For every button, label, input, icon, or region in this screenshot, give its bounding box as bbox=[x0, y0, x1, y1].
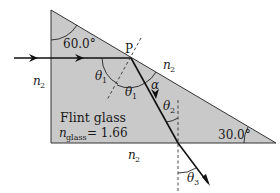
top-angle-label: 60.0° bbox=[63, 37, 96, 51]
n2-label-right: n 2 bbox=[163, 58, 175, 74]
svg-text:2: 2 bbox=[40, 81, 45, 90]
n2-label-bottom: n 2 bbox=[128, 148, 140, 164]
point-p-label: P bbox=[125, 42, 133, 56]
svg-text:1: 1 bbox=[132, 92, 137, 101]
svg-text:glass: glass bbox=[66, 133, 87, 142]
svg-text:= 1.66: = 1.66 bbox=[87, 126, 128, 140]
alpha-label: α bbox=[151, 78, 159, 92]
right-angle-label: 30.0° bbox=[218, 128, 251, 142]
svg-text:2: 2 bbox=[170, 65, 175, 74]
svg-text:1: 1 bbox=[102, 76, 107, 85]
svg-text:2: 2 bbox=[170, 106, 175, 115]
theta3-label: θ 3 bbox=[187, 171, 199, 187]
svg-text:3: 3 bbox=[194, 178, 199, 187]
svg-text:2: 2 bbox=[135, 155, 140, 164]
prism-refraction-diagram: 60.0° 30.0° P n 2 n 2 n 2 θ 1 θ 1 α θ 2 … bbox=[0, 0, 280, 193]
n2-label-left: n 2 bbox=[33, 74, 45, 90]
material-name: Flint glass bbox=[60, 110, 126, 125]
